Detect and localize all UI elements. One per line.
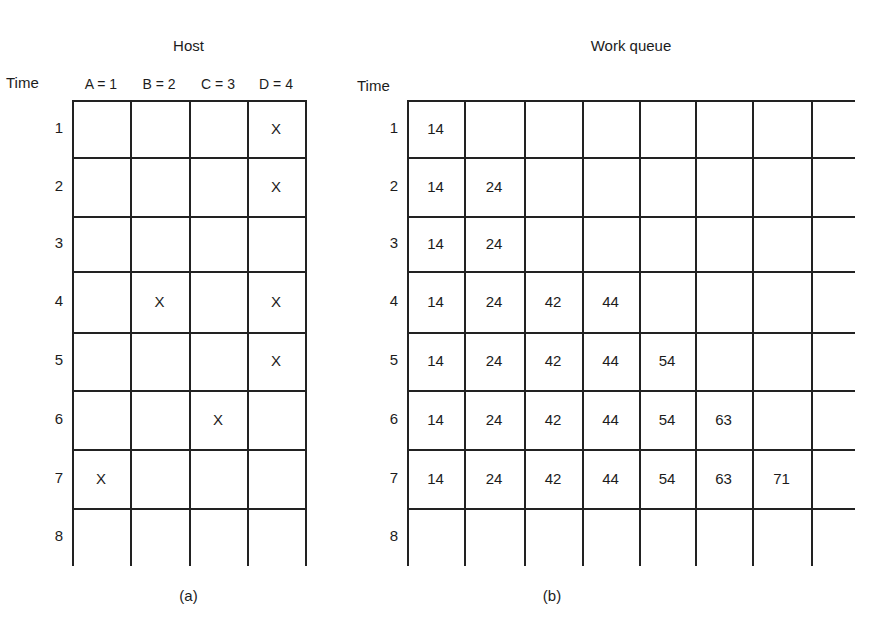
grid-line: [695, 100, 697, 566]
grid-line: [305, 100, 307, 566]
queue-cell-value: 24: [464, 410, 524, 430]
host-cell-mark: X: [189, 410, 247, 430]
queue-cell-value: 44: [582, 292, 639, 312]
queue-cell-value: 44: [582, 469, 639, 489]
queue-row-label: 7: [378, 469, 398, 486]
host-cell-mark: X: [247, 119, 305, 139]
queue-cell-value: 14: [407, 292, 464, 312]
queue-cell-value: 54: [639, 351, 695, 371]
host-cell-mark: X: [247, 292, 305, 312]
work-queue-time-label: Time: [357, 77, 390, 94]
grid-line: [407, 449, 855, 451]
host-cell-mark: X: [247, 351, 305, 371]
queue-row-label: 2: [378, 177, 398, 194]
queue-cell-value: 63: [695, 469, 752, 489]
queue-cell-value: 54: [639, 410, 695, 430]
host-row-label: 5: [43, 351, 63, 368]
queue-cell-value: 54: [639, 469, 695, 489]
grid-line: [407, 271, 855, 273]
queue-cell-value: 63: [695, 410, 752, 430]
queue-row-label: 1: [378, 119, 398, 136]
host-column-header: D = 4: [247, 76, 305, 92]
grid-line: [130, 100, 132, 566]
queue-cell-value: 71: [752, 469, 811, 489]
grid-line: [407, 157, 855, 159]
grid-line: [524, 100, 526, 566]
grid-line: [189, 100, 191, 566]
queue-cell-value: 44: [582, 351, 639, 371]
grid-line: [752, 100, 754, 566]
queue-cell-value: 14: [407, 119, 464, 139]
queue-cell-value: 24: [464, 177, 524, 197]
grid-line: [407, 390, 855, 392]
queue-cell-value: 14: [407, 469, 464, 489]
host-caption: (a): [72, 587, 305, 604]
queue-row-label: 4: [378, 292, 398, 309]
queue-row-label: 6: [378, 410, 398, 427]
queue-row-label: 3: [378, 234, 398, 251]
queue-cell-value: 24: [464, 292, 524, 312]
host-row-label: 6: [43, 410, 63, 427]
host-row-label: 2: [43, 177, 63, 194]
queue-cell-value: 14: [407, 410, 464, 430]
host-row-label: 1: [43, 119, 63, 136]
grid-line: [811, 100, 813, 566]
host-cell-mark: X: [72, 469, 130, 489]
queue-row-label: 8: [378, 527, 398, 544]
queue-cell-value: 42: [524, 469, 582, 489]
grid-line: [72, 100, 74, 566]
grid-line: [407, 100, 855, 102]
host-column-header: A = 1: [72, 76, 130, 92]
grid-line: [464, 100, 466, 566]
grid-line: [407, 100, 409, 566]
queue-cell-value: 42: [524, 351, 582, 371]
queue-cell-value: 42: [524, 410, 582, 430]
queue-cell-value: 14: [407, 177, 464, 197]
queue-cell-value: 42: [524, 292, 582, 312]
host-row-label: 3: [43, 234, 63, 251]
host-cell-mark: X: [247, 177, 305, 197]
host-row-label: 8: [43, 527, 63, 544]
work-queue-title: Work queue: [407, 37, 855, 54]
host-title: Host: [72, 37, 305, 54]
queue-cell-value: 14: [407, 234, 464, 254]
host-column-header: B = 2: [130, 76, 188, 92]
queue-cell-value: 24: [464, 351, 524, 371]
queue-cell-value: 24: [464, 234, 524, 254]
grid-line: [582, 100, 584, 566]
grid-line: [247, 100, 249, 566]
queue-cell-value: 44: [582, 410, 639, 430]
work-queue-caption: (b): [407, 587, 697, 604]
host-time-label: Time: [6, 74, 39, 91]
grid-line: [407, 508, 855, 510]
queue-row-label: 5: [378, 351, 398, 368]
queue-cell-value: 24: [464, 469, 524, 489]
grid-line: [407, 332, 855, 334]
grid-line: [407, 216, 855, 218]
host-row-label: 7: [43, 469, 63, 486]
queue-cell-value: 14: [407, 351, 464, 371]
host-column-header: C = 3: [189, 76, 247, 92]
grid-line: [639, 100, 641, 566]
host-cell-mark: X: [130, 292, 189, 312]
host-row-label: 4: [43, 292, 63, 309]
